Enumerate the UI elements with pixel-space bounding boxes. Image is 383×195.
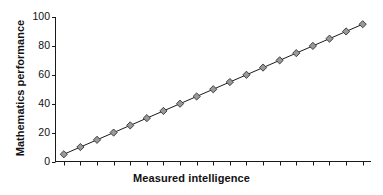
data-point-marker — [193, 93, 200, 100]
data-point-marker — [276, 57, 283, 64]
data-point-marker — [226, 78, 233, 85]
data-point-marker — [143, 115, 150, 122]
data-point-marker — [110, 129, 117, 136]
data-point-marker — [326, 35, 333, 42]
data-point-marker — [60, 151, 67, 158]
data-point-marker — [210, 86, 217, 93]
y-tick-label: 20 — [24, 126, 50, 138]
x-axis-ticks — [65, 162, 364, 166]
y-tick-label: 40 — [24, 97, 50, 109]
y-tick-label: 100 — [24, 10, 50, 22]
data-point-marker — [309, 42, 316, 49]
x-axis-title: Measured intelligence — [0, 172, 383, 184]
data-point-marker — [93, 136, 100, 143]
y-tick-label: 0 — [24, 155, 50, 167]
data-point-markers — [60, 21, 366, 158]
y-axis-ticks — [52, 18, 56, 163]
data-point-marker — [243, 71, 250, 78]
data-point-marker — [359, 21, 366, 28]
y-axis-title: Mathematics performance — [14, 8, 26, 168]
data-point-marker — [176, 100, 183, 107]
data-point-marker — [127, 122, 134, 129]
data-point-marker — [293, 50, 300, 57]
y-tick-label: 60 — [24, 68, 50, 80]
data-point-marker — [160, 107, 167, 114]
chart-plot-area — [0, 0, 383, 195]
y-tick-label: 80 — [24, 39, 50, 51]
data-point-marker — [259, 64, 266, 71]
chart-container: 020406080100 Mathematics performance Mea… — [0, 0, 383, 195]
data-point-marker — [77, 143, 84, 150]
data-point-marker — [342, 28, 349, 35]
